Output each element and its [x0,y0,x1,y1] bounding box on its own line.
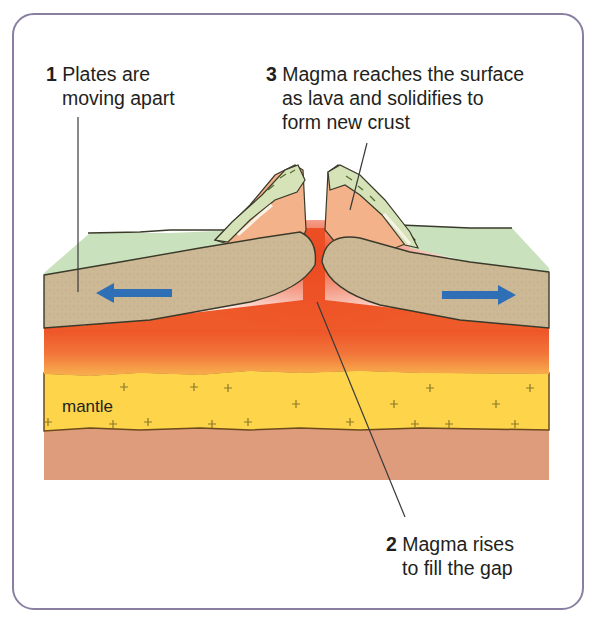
label-magma-reaches-surface: 3 Magma reaches the surface as lava and … [266,62,524,134]
new-crust-ridge-right [325,165,418,248]
mantle-label: mantle [62,397,113,417]
mantle-layer [44,370,549,431]
lower-mantle-layer [44,428,549,480]
label-magma-rises: 2 Magma rises to fill the gap [386,532,514,580]
label-plates-moving-apart: 1 Plates are moving apart [46,62,175,110]
